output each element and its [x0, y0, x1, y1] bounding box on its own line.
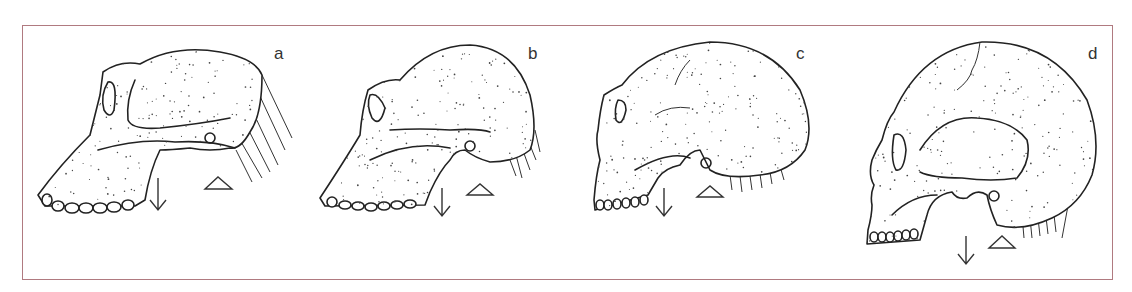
stipple-dot: [390, 165, 392, 167]
stipple-dot: [700, 73, 702, 75]
stipple-dot: [400, 171, 401, 172]
stipple-dot: [932, 139, 933, 140]
stipple-dot: [675, 54, 677, 56]
stipple-dot: [930, 149, 931, 150]
stipple-dot: [399, 80, 401, 82]
stipple-dot: [139, 135, 141, 137]
stipple-dot: [657, 68, 658, 69]
stipple-dot: [455, 138, 457, 140]
stipple-dot: [97, 199, 98, 200]
stipple-dot: [65, 173, 67, 175]
stipple-dot: [746, 156, 747, 157]
stipple-dot: [117, 152, 118, 153]
stipple-dot: [1031, 206, 1033, 208]
stipple-dot: [364, 156, 365, 157]
stipple-dot: [382, 96, 383, 97]
stipple-dot: [935, 88, 936, 89]
stipple-dot: [359, 165, 360, 166]
stipple-dot: [427, 149, 429, 151]
stipple-dot: [1006, 210, 1007, 211]
stipple-dot: [181, 116, 183, 118]
stipple-dot: [664, 53, 666, 55]
stipple-dot: [660, 160, 662, 162]
stipple-dot: [752, 114, 754, 116]
stipple-dot: [236, 103, 237, 104]
stipple-dot: [984, 66, 985, 67]
stipple-dot: [495, 59, 496, 60]
stipple-dot: [472, 141, 474, 143]
stipple-dot: [142, 118, 143, 119]
stipple-dot: [1073, 100, 1075, 102]
stipple-dot: [1011, 140, 1013, 142]
stipple-dot: [673, 68, 674, 69]
stipple-dot: [927, 148, 928, 149]
stipple-dot: [779, 138, 780, 139]
stipple-dot: [788, 127, 789, 128]
stipple-dot: [904, 100, 906, 102]
stipple-dot: [394, 180, 395, 181]
stipple-dot: [917, 196, 918, 197]
stipple-dot: [1011, 200, 1012, 201]
stipple-dot: [629, 189, 630, 190]
skull-a-drawing: [0, 0, 300, 292]
stipple-dot: [1043, 206, 1045, 208]
stipple-dot: [667, 51, 669, 53]
stipple-dot: [894, 118, 895, 119]
stipple-dot: [940, 190, 942, 192]
stipple-dot: [1048, 64, 1050, 66]
stipple-dot: [522, 126, 523, 127]
stipple-dot: [945, 127, 947, 129]
stipple-dot: [57, 204, 58, 205]
stipple-dot: [800, 106, 802, 108]
stipple-dot: [731, 159, 733, 161]
stipple-dot: [156, 98, 157, 99]
stipple-dot: [1023, 155, 1024, 156]
stipple-dot: [357, 156, 359, 158]
stipple-dot: [603, 183, 604, 184]
stipple-dot: [871, 215, 872, 216]
stipple-dot: [366, 143, 367, 144]
stipple-dot: [950, 162, 951, 163]
stipple-dot: [1057, 75, 1059, 77]
stipple-dot: [484, 79, 485, 80]
stipple-dot: [494, 108, 496, 110]
stipple-dot: [503, 62, 505, 64]
stipple-dot: [657, 116, 659, 118]
stipple-dot: [970, 110, 972, 112]
stipple-dot: [175, 59, 177, 61]
stipple-dot: [875, 157, 876, 158]
stipple-dot: [189, 120, 191, 122]
stipple-dot: [956, 190, 957, 191]
stipple-dot: [174, 101, 175, 102]
stipple-dot: [1004, 90, 1006, 92]
stipple-dot: [511, 157, 512, 158]
stipple-dot: [757, 126, 759, 128]
stipple-dot: [79, 152, 80, 153]
stipple-dot: [362, 154, 363, 155]
stipple-dot: [985, 46, 987, 48]
stipple-dot: [1081, 147, 1082, 148]
stipple-dot: [181, 136, 182, 137]
stipple-dot: [176, 65, 177, 66]
stipple-dot: [181, 91, 182, 92]
stipple-dot: [376, 165, 377, 166]
stipple-dot: [249, 63, 250, 64]
stipple-dot: [214, 75, 216, 77]
stipple-dot: [1072, 183, 1073, 184]
stipple-dot: [725, 130, 726, 131]
stipple-dot: [90, 165, 91, 166]
stipple-dot: [740, 161, 742, 163]
stipple-dot: [1051, 91, 1053, 93]
triangle-icon: [467, 184, 493, 195]
stipple-dot: [760, 62, 761, 63]
stipple-dot: [391, 101, 393, 103]
stipple-dot: [1059, 128, 1060, 129]
stipple-dot: [734, 65, 735, 66]
stipple-dot: [927, 114, 928, 115]
stipple-dot: [428, 180, 429, 181]
stipple-dot: [215, 71, 216, 72]
stipple-dot: [917, 231, 918, 232]
stipple-dot: [208, 82, 209, 83]
stipple-dot: [895, 214, 896, 215]
stipple-dot: [774, 138, 775, 139]
